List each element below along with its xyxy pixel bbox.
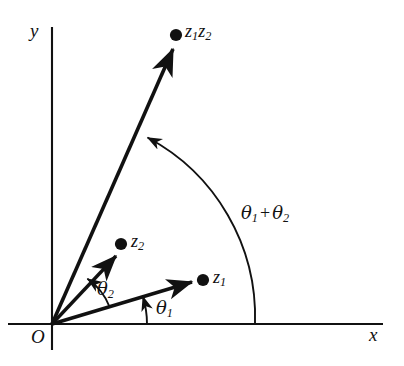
theta-sum-first-symbol: θ	[241, 202, 252, 223]
point-z1z2	[170, 29, 182, 41]
axes-group	[8, 27, 383, 350]
theta-sum-operator: +	[258, 203, 272, 223]
z1-base: z	[213, 267, 220, 287]
figure-vector-graphics	[0, 0, 404, 366]
theta1-symbol: θ	[156, 297, 167, 318]
point-label-z1: z1	[213, 268, 226, 289]
angle-arc-theta-sum	[148, 138, 256, 324]
z1-sub: 1	[220, 275, 226, 289]
point-z2	[115, 238, 127, 250]
point-z1	[197, 274, 209, 286]
theta2-symbol: θ	[97, 278, 108, 299]
y-axis-label: y	[30, 21, 38, 40]
z2-base: z	[131, 231, 138, 251]
x-axis-label: x	[369, 325, 377, 344]
theta-sum-second-sub: 2	[283, 211, 289, 225]
angle-label-theta1: θ1	[156, 299, 173, 320]
theta-sum-second-symbol: θ	[272, 202, 283, 223]
point-label-z1z2: z1z2	[185, 22, 211, 43]
origin-label: O	[31, 327, 45, 346]
z1z2-sub-2: 2	[205, 29, 211, 43]
angle-arc-theta1	[143, 297, 147, 325]
theta2-sub: 2	[108, 287, 114, 301]
argand-diagram-figure: y x O z1z2 z2 z1 θ2 θ1 θ1+θ2	[0, 0, 404, 366]
theta1-sub: 1	[167, 306, 173, 320]
angle-label-theta2: θ2	[97, 280, 114, 301]
z2-sub: 2	[138, 239, 144, 253]
z1z2-base-1: z	[185, 21, 192, 41]
point-label-z2: z2	[131, 232, 144, 253]
vector-z1z2	[52, 29, 182, 324]
angle-label-theta-sum: θ1+θ2	[241, 204, 289, 225]
